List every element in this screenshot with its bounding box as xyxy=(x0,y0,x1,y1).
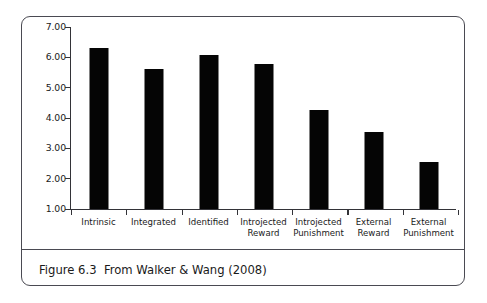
category-label-line: Introjected xyxy=(236,217,291,228)
y-axis-tick-label: 4.00 xyxy=(46,113,66,122)
y-axis-tick-label: 2.00 xyxy=(46,174,66,183)
x-axis-category-label: Intrinsic xyxy=(71,217,126,228)
bar-slot xyxy=(71,27,126,209)
x-axis-tick-mark xyxy=(237,210,238,215)
category-label-line: External xyxy=(401,217,456,228)
bar-slot xyxy=(291,27,346,209)
category-label-line: Punishment xyxy=(291,228,346,239)
bar-slot xyxy=(236,27,291,209)
figure-frame: 1.002.003.004.005.006.007.00 IntrinsicIn… xyxy=(21,16,465,286)
plot-area xyxy=(71,27,456,209)
bar-slot xyxy=(181,27,236,209)
category-label-line: Identified xyxy=(181,217,236,228)
bar-slot xyxy=(346,27,401,209)
bar xyxy=(254,64,273,209)
x-axis-tick-mark xyxy=(403,210,404,215)
bar xyxy=(144,69,163,209)
x-axis-category-label: ExternalReward xyxy=(346,217,401,240)
figure-caption: Figure 6.3 From Walker & Wang (2008) xyxy=(39,263,267,277)
y-axis-tick-label: 3.00 xyxy=(46,144,66,153)
y-axis-tick-mark xyxy=(65,148,70,149)
x-axis-tick-mark xyxy=(347,210,348,215)
y-axis-tick-mark xyxy=(65,178,70,179)
x-axis-tick-mark xyxy=(71,210,72,215)
y-axis-tick-label: 7.00 xyxy=(46,22,66,31)
category-label-line: Punishment xyxy=(401,228,456,239)
x-axis-category-label: Integrated xyxy=(126,217,181,228)
y-axis-tick-label: 1.00 xyxy=(46,204,66,213)
x-axis-tick-mark xyxy=(182,210,183,215)
x-axis-tick-mark xyxy=(292,210,293,215)
category-label-line: Reward xyxy=(346,228,401,239)
category-label-line: Introjected xyxy=(291,217,346,228)
bar xyxy=(309,110,328,209)
x-axis-category-label: IntrojectedReward xyxy=(236,217,291,240)
x-axis-tick-mark xyxy=(126,210,127,215)
y-axis-tick-mark xyxy=(65,27,70,28)
category-label-line: Intrinsic xyxy=(71,217,126,228)
category-label-line: Integrated xyxy=(126,217,181,228)
bar-slot xyxy=(126,27,181,209)
y-axis-tick-mark xyxy=(65,57,70,58)
chart-region: 1.002.003.004.005.006.007.00 IntrinsicIn… xyxy=(22,17,464,245)
category-label-line: Reward xyxy=(236,228,291,239)
x-axis-category-label: ExternalPunishment xyxy=(401,217,456,240)
x-axis-category-label: IntrojectedPunishment xyxy=(291,217,346,240)
bar xyxy=(419,162,438,209)
category-label-line: External xyxy=(346,217,401,228)
y-axis-tick-label: 5.00 xyxy=(46,83,66,92)
y-axis-tick-label: 6.00 xyxy=(46,53,66,62)
caption-divider xyxy=(22,249,464,250)
y-axis-tick-mark xyxy=(65,118,70,119)
bar xyxy=(89,48,108,209)
bar xyxy=(199,55,218,209)
bar xyxy=(364,132,383,209)
x-axis-category-label: Identified xyxy=(181,217,236,228)
bar-slot xyxy=(401,27,456,209)
x-axis-line xyxy=(70,209,456,210)
x-axis-tick-mark xyxy=(458,210,459,215)
plot-wrapper: 1.002.003.004.005.006.007.00 IntrinsicIn… xyxy=(36,27,456,245)
y-axis-tick-mark xyxy=(65,87,70,88)
